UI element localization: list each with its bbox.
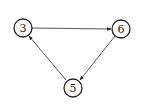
node-6: 6 bbox=[112, 20, 130, 38]
edge-5-to-3 bbox=[29, 36, 66, 80]
node-5: 5 bbox=[64, 79, 82, 97]
node-3: 3 bbox=[14, 19, 32, 37]
node-label: 6 bbox=[118, 23, 125, 36]
edge-6-to-5 bbox=[80, 36, 115, 80]
graph-canvas: 3 6 5 bbox=[0, 0, 143, 107]
node-label: 5 bbox=[70, 82, 77, 95]
node-label: 3 bbox=[20, 22, 27, 35]
edge-3-to-6 bbox=[32, 28, 111, 29]
